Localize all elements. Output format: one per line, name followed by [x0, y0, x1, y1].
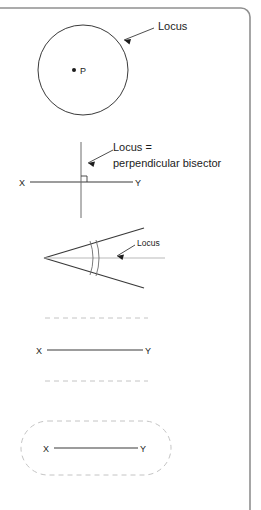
center-point-dot: [72, 68, 76, 72]
bisector-callout-line-1: Locus =: [113, 141, 152, 153]
figure-perpendicular-bisector: X Y Locus = perpendicular bisector: [19, 141, 222, 218]
figure-circle-locus: P Locus: [38, 20, 188, 115]
page-border: [0, 8, 250, 510]
bisector-callout-leader: [88, 150, 113, 163]
figure-parallel-lines-locus: X Y: [36, 318, 151, 381]
segment-endpoint-x-label: X: [19, 178, 25, 188]
geometry-locus-illustration: P Locus X Y Locus = perpendicular bisect…: [0, 0, 261, 510]
bisector-callout-line-2: perpendicular bisector: [113, 157, 222, 169]
center-point-label: P: [80, 66, 86, 76]
locus-diagram-page: P Locus X Y Locus = perpendicular bisect…: [0, 0, 261, 510]
right-angle-marker: [81, 176, 87, 182]
segment-endpoint-x-label: X: [43, 444, 49, 454]
angle-ray-lower: [44, 258, 144, 288]
angle-callout-label: Locus: [137, 238, 160, 248]
segment-endpoint-y-label: Y: [135, 178, 141, 188]
segment-endpoint-x-label: X: [36, 346, 42, 356]
figure-angle-bisector: Locus: [44, 228, 165, 288]
angle-ray-upper: [44, 228, 144, 258]
angle-callout-leader: [117, 245, 135, 256]
segment-endpoint-y-label: Y: [145, 346, 151, 356]
circle-callout-label: Locus: [158, 20, 188, 32]
segment-endpoint-y-label: Y: [140, 444, 146, 454]
figure-capsule-locus: X Y: [21, 421, 171, 475]
circle-callout-leader: [124, 28, 154, 40]
